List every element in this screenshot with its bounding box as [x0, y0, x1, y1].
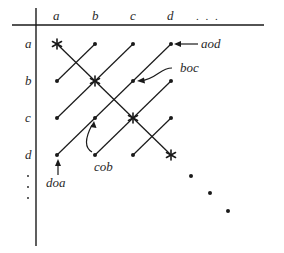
arrow-left-icon	[137, 78, 145, 84]
annotation-doa-label: doa	[46, 175, 66, 190]
column-header-a: a	[53, 8, 60, 23]
column-header-ellipsis: . . .	[196, 10, 220, 22]
annotation-boc-label: boc	[180, 60, 199, 75]
annotation-aod: aod	[174, 36, 221, 51]
row-header-b: b	[25, 73, 32, 88]
annotation-cob-label: cob	[94, 159, 113, 174]
column-header-d: d	[167, 8, 174, 23]
annotation-doa: doa	[46, 159, 66, 190]
row-ellipsis-icon	[27, 175, 29, 199]
continuation-dots	[189, 174, 230, 213]
pairing-diagram: a b c d . . . a b c d	[0, 0, 284, 253]
row-header-c: c	[25, 110, 31, 125]
row-header-a: a	[25, 36, 32, 51]
annotation-cob: cob	[86, 121, 113, 174]
annotation-aod-label: aod	[201, 36, 221, 51]
column-header-b: b	[92, 8, 99, 23]
column-header-c: c	[130, 8, 136, 23]
arrow-left-icon	[174, 41, 181, 47]
annotation-boc: boc	[137, 60, 199, 84]
arrow-up-icon	[55, 159, 61, 166]
row-header-d: d	[25, 147, 32, 162]
